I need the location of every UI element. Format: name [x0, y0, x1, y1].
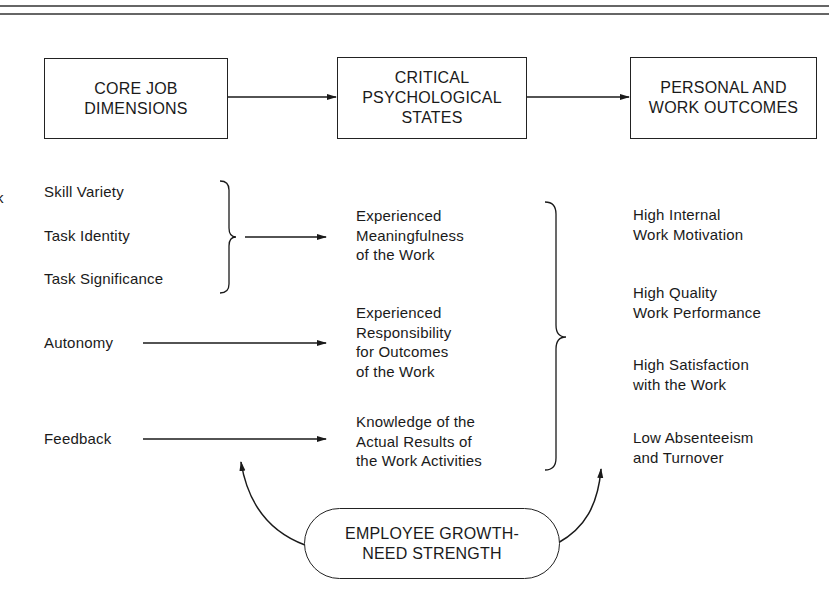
dimension-skill-variety: Skill Variety [44, 182, 124, 202]
dimension-feedback: Feedback [44, 429, 111, 449]
growth-need-strength-moderator: EMPLOYEE GROWTH- NEED STRENGTH [304, 508, 560, 579]
personal-work-outcomes-box: PERSONAL AND WORK OUTCOMES [630, 57, 817, 139]
states-brace [545, 202, 566, 470]
dimension-autonomy: Autonomy [44, 333, 113, 353]
moderator-arrow-left [241, 462, 305, 545]
state-responsibility: Experienced Responsibility for Outcomes … [356, 303, 451, 381]
state-meaningfulness: Experienced Meaningfulness of the Work [356, 206, 464, 265]
critical-psychological-states-box: CRITICAL PSYCHOLOGICAL STATES [337, 57, 527, 139]
moderator-arrow-right [558, 469, 601, 543]
outcome-quality-performance: High Quality Work Performance [633, 283, 761, 322]
state-knowledge-of-results: Knowledge of the Actual Results of the W… [356, 412, 482, 471]
outcome-satisfaction: High Satisfaction with the Work [633, 355, 749, 394]
dimension-task-significance: Task Significance [44, 269, 163, 289]
edge-text-fragment: k [0, 188, 4, 208]
core-job-dimensions-box: CORE JOB DIMENSIONS [44, 58, 228, 139]
outcome-absenteeism-turnover: Low Absenteeism and Turnover [633, 428, 754, 467]
dimension-task-identity: Task Identity [44, 226, 130, 246]
outcome-internal-motivation: High Internal Work Motivation [633, 205, 743, 244]
dimensions-brace [220, 181, 236, 293]
